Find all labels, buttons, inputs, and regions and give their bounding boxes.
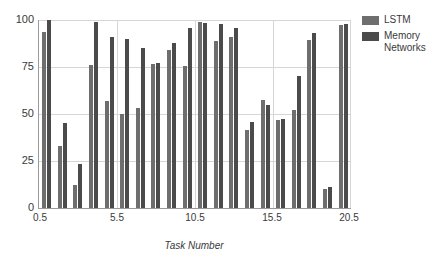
bar-lstm-task-6 bbox=[120, 114, 124, 208]
y-tick-50: 50 bbox=[4, 108, 34, 119]
y-tick-0: 0 bbox=[4, 202, 34, 213]
bar-memory-networks-task-10 bbox=[188, 28, 192, 208]
bar-series-container bbox=[39, 20, 351, 208]
bar-memory-networks-task-19 bbox=[328, 187, 332, 208]
legend-swatch-lstm bbox=[362, 16, 379, 25]
legend-label-lstm: LSTM bbox=[384, 14, 411, 26]
bar-memory-networks-task-1 bbox=[47, 20, 51, 208]
bar-group-task-20 bbox=[335, 20, 351, 208]
bar-group-task-18 bbox=[304, 20, 320, 208]
legend-label-memory-networks: Memory Networks bbox=[384, 30, 426, 54]
bar-group-task-9 bbox=[164, 20, 180, 208]
bar-lstm-task-19 bbox=[323, 189, 327, 208]
bar-memory-networks-task-4 bbox=[94, 22, 98, 208]
bar-group-task-13 bbox=[226, 20, 242, 208]
bar-group-task-17 bbox=[289, 20, 305, 208]
bar-memory-networks-task-6 bbox=[125, 39, 129, 208]
bar-group-task-12 bbox=[211, 20, 227, 208]
y-tick-100: 100 bbox=[4, 14, 34, 25]
x-tick-20-5: 20.5 bbox=[329, 213, 369, 223]
x-tick-10-5: 10.5 bbox=[175, 213, 215, 223]
bar-lstm-task-2 bbox=[58, 146, 62, 208]
bar-lstm-task-20 bbox=[339, 25, 343, 208]
bar-lstm-task-17 bbox=[292, 110, 296, 208]
bar-memory-networks-task-5 bbox=[110, 37, 114, 208]
bar-group-task-14 bbox=[242, 20, 258, 208]
bar-memory-networks-task-17 bbox=[297, 76, 301, 208]
y-tick-25: 25 bbox=[4, 155, 34, 166]
y-tick-75: 75 bbox=[4, 61, 34, 72]
bar-lstm-task-10 bbox=[183, 66, 187, 208]
bar-group-task-7 bbox=[133, 20, 149, 208]
bar-memory-networks-task-11 bbox=[203, 23, 207, 208]
bar-lstm-task-18 bbox=[307, 40, 311, 208]
bar-group-task-1 bbox=[39, 20, 55, 208]
bar-group-task-11 bbox=[195, 20, 211, 208]
bar-memory-networks-task-9 bbox=[172, 43, 176, 208]
bar-memory-networks-task-12 bbox=[219, 24, 223, 208]
bar-group-task-6 bbox=[117, 20, 133, 208]
bar-memory-networks-task-13 bbox=[234, 28, 238, 208]
x-tick-5-5: 5.5 bbox=[97, 213, 137, 223]
bar-lstm-task-11 bbox=[198, 22, 202, 208]
x-tick-0-5: 0.5 bbox=[20, 213, 60, 223]
bar-lstm-task-9 bbox=[167, 50, 171, 208]
x-axis-title: Task Number bbox=[38, 240, 350, 251]
bar-lstm-task-3 bbox=[73, 185, 77, 209]
legend-item-lstm: LSTM bbox=[362, 14, 446, 26]
bar-lstm-task-12 bbox=[214, 41, 218, 208]
legend-swatch-memory-networks bbox=[362, 32, 379, 41]
bar-lstm-task-13 bbox=[229, 37, 233, 208]
legend-item-memory-networks: Memory Networks bbox=[362, 30, 446, 54]
bar-lstm-task-1 bbox=[42, 32, 46, 208]
bar-chart-figure: 100 75 50 25 0 0.5 5.5 10.5 15.5 20.5 Ta… bbox=[0, 0, 447, 262]
x-axis-tick-labels: 0.5 5.5 10.5 15.5 20.5 bbox=[0, 213, 447, 227]
bar-group-task-2 bbox=[55, 20, 71, 208]
bar-memory-networks-task-7 bbox=[141, 48, 145, 208]
bar-group-task-16 bbox=[273, 20, 289, 208]
bar-memory-networks-task-2 bbox=[63, 123, 67, 208]
bar-memory-networks-task-3 bbox=[78, 164, 82, 208]
bar-group-task-4 bbox=[86, 20, 102, 208]
bar-lstm-task-14 bbox=[245, 130, 249, 208]
y-axis-tick-labels: 100 75 50 25 0 bbox=[0, 0, 34, 220]
plot-area bbox=[38, 20, 351, 209]
bar-lstm-task-4 bbox=[89, 65, 93, 208]
bar-lstm-task-7 bbox=[136, 108, 140, 208]
bar-group-task-3 bbox=[70, 20, 86, 208]
x-tick-15-5: 15.5 bbox=[252, 213, 292, 223]
bar-memory-networks-task-16 bbox=[281, 119, 285, 208]
bar-memory-networks-task-20 bbox=[344, 24, 348, 208]
bar-group-task-5 bbox=[101, 20, 117, 208]
bar-memory-networks-task-8 bbox=[156, 63, 160, 208]
bar-lstm-task-5 bbox=[105, 101, 109, 208]
bar-group-task-10 bbox=[179, 20, 195, 208]
chart-legend: LSTM Memory Networks bbox=[362, 14, 446, 58]
bar-memory-networks-task-14 bbox=[250, 122, 254, 208]
bar-lstm-task-16 bbox=[276, 120, 280, 208]
bar-lstm-task-15 bbox=[261, 100, 265, 208]
bar-memory-networks-task-18 bbox=[312, 33, 316, 208]
bar-lstm-task-8 bbox=[151, 64, 155, 208]
bar-group-task-8 bbox=[148, 20, 164, 208]
bar-group-task-15 bbox=[257, 20, 273, 208]
bar-group-task-19 bbox=[320, 20, 336, 208]
bar-memory-networks-task-15 bbox=[266, 105, 270, 208]
